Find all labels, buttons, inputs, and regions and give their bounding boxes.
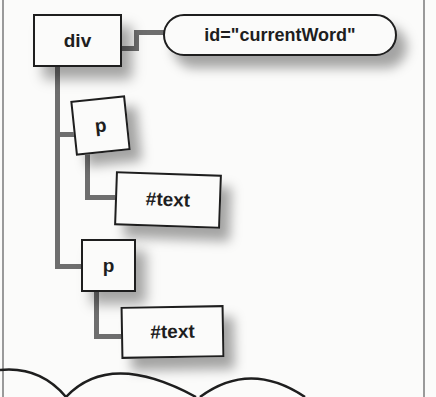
dom-tree-diagram: div id="currentWord" p #text p #text: [0, 0, 436, 397]
cloud-shape: [0, 0, 436, 397]
